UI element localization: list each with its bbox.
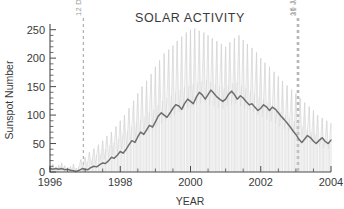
x-tick-label: 2004: [319, 176, 343, 188]
solar-activity-chart-svg: SOLAR ACTIVITY Sunspot Number YEAR 19961…: [0, 0, 344, 209]
x-tick-labels-group: 19961998200020022004: [38, 176, 343, 188]
x-axis-title: YEAR: [176, 195, 205, 207]
annotation-label: 31 JAN 2003: [289, 0, 298, 16]
y-axis-title: Sunspot Number: [3, 60, 15, 139]
x-tick-label: 1998: [108, 176, 132, 188]
y-tick-label: 0: [39, 166, 45, 178]
x-tick-label: 2002: [249, 176, 273, 188]
annotation-label: 12 DEC 1996: [74, 0, 83, 16]
y-tick-label: 150: [27, 81, 45, 93]
x-tick-label: 2000: [178, 176, 202, 188]
y-tick-labels-group: 050100150200250: [27, 24, 45, 178]
y-tick-label: 200: [27, 52, 45, 64]
y-tick-label: 250: [27, 24, 45, 36]
y-tick-label: 50: [33, 138, 45, 150]
daily-sunspot-series: [50, 29, 331, 172]
annotation-lines-group: [83, 18, 298, 172]
chart-title: SOLAR ACTIVITY: [135, 11, 245, 25]
y-tick-label: 100: [27, 109, 45, 121]
solar-activity-chart-figure: SOLAR ACTIVITY Sunspot Number YEAR 19961…: [0, 0, 344, 209]
